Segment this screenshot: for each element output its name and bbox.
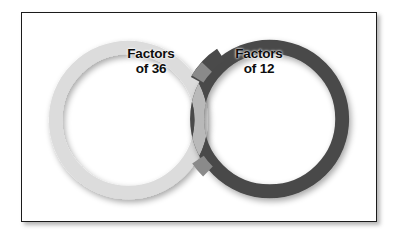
- left-set-label: Factors of 36: [108, 46, 194, 76]
- bottom-crossing-overlap: [56, 13, 291, 192]
- diagram-canvas: [22, 13, 376, 221]
- right-set-label: Factors of 12: [216, 46, 302, 76]
- intersection-patch-top: [198, 67, 207, 79]
- right-set-label-line2: of 12: [216, 61, 302, 76]
- venn-diagram-figure: Factors of 36 Factors of 12: [0, 0, 398, 234]
- diagram-frame: Factors of 36 Factors of 12: [21, 12, 377, 222]
- venn-circles-svg: [22, 13, 376, 221]
- right-set-label-line1: Factors: [216, 46, 302, 61]
- intersection-patch-bottom: [198, 160, 208, 172]
- left-set-label-line2: of 36: [108, 61, 194, 76]
- left-set-label-line1: Factors: [108, 46, 194, 61]
